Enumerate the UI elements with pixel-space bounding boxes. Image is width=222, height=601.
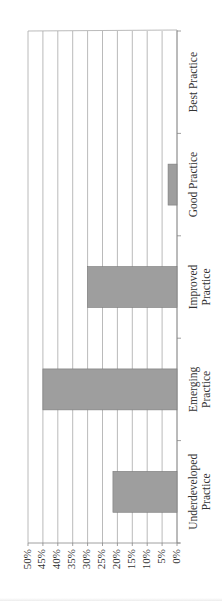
chart-stage: 0%5%10%15%20%25%30%35%40%45%50%Underdeve…	[0, 0, 222, 601]
category-label: Best Practice	[187, 52, 199, 112]
plot-top-edge	[28, 30, 177, 31]
svg-text:Practice: Practice	[200, 371, 212, 408]
category-label: UnderdevelopedPractice	[187, 454, 212, 530]
value-tick-label: 20%	[110, 549, 122, 569]
svg-text:Emerging: Emerging	[187, 367, 200, 412]
value-tick-label: 45%	[35, 549, 47, 569]
bar-underdeveloped-practice	[113, 471, 177, 512]
value-tick-label: 25%	[95, 549, 107, 569]
svg-text:Practice: Practice	[200, 473, 212, 510]
svg-text:Underdeveloped: Underdeveloped	[187, 454, 200, 530]
value-tick-label: 50%	[21, 549, 33, 569]
value-tick-label: 15%	[125, 549, 137, 569]
value-tick-label: 0%	[170, 549, 182, 564]
bar-improved-practice	[88, 267, 177, 308]
value-tick-label: 40%	[50, 549, 62, 569]
svg-text:Practice: Practice	[200, 268, 212, 305]
value-tick-label: 30%	[80, 549, 92, 569]
svg-text:Good Practice: Good Practice	[187, 152, 199, 217]
svg-text:Improved: Improved	[187, 264, 200, 309]
value-tick-label: 35%	[65, 549, 77, 569]
value-tick-label: 5%	[155, 549, 167, 564]
category-label: ImprovedPractice	[187, 264, 212, 309]
category-label: Good Practice	[187, 152, 199, 217]
bar-chart: 0%5%10%15%20%25%30%35%40%45%50%Underdeve…	[0, 0, 222, 601]
category-label: EmergingPractice	[187, 367, 212, 412]
bar-good-practice	[168, 164, 177, 205]
bar-emerging-practice	[43, 369, 177, 410]
svg-text:Best Practice: Best Practice	[187, 52, 199, 112]
value-tick-label: 10%	[140, 549, 152, 569]
